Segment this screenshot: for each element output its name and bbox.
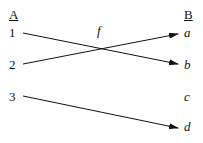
arrow-3-to-d (23, 96, 178, 128)
mapping-arrows (0, 0, 203, 143)
